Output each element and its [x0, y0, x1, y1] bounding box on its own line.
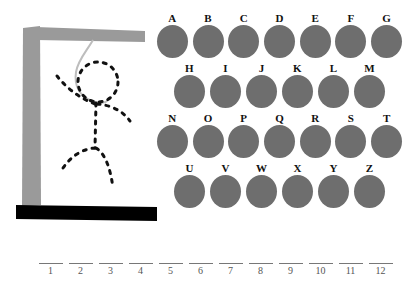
letter-label: I — [223, 62, 227, 74]
letter-label: Z — [366, 162, 374, 174]
letter-label: T — [383, 112, 391, 124]
word-slot-number: 2 — [78, 265, 83, 277]
letter-disc-icon[interactable] — [335, 125, 366, 158]
letter-button-n[interactable]: N — [155, 112, 190, 162]
letter-disc-icon[interactable] — [282, 75, 313, 108]
letter-label: S — [348, 112, 354, 124]
letter-disc-icon[interactable] — [246, 175, 277, 208]
letter-disc-icon[interactable] — [246, 75, 277, 108]
letter-disc-icon[interactable] — [264, 25, 295, 58]
figure-head-icon — [78, 62, 118, 102]
gallows-beam-icon — [36, 27, 145, 42]
letter-disc-icon[interactable] — [210, 75, 241, 108]
word-slot[interactable]: 2 — [66, 252, 95, 277]
word-slot-line — [159, 263, 183, 264]
letter-button-y[interactable]: Y — [316, 162, 351, 212]
word-slot-number: 4 — [138, 265, 143, 277]
letter-disc-icon[interactable] — [157, 25, 188, 58]
letter-disc-icon[interactable] — [193, 25, 224, 58]
word-slot-number: 5 — [168, 265, 173, 277]
letter-disc-icon[interactable] — [300, 25, 331, 58]
word-slot-line — [189, 263, 213, 264]
letter-label: F — [347, 12, 354, 24]
word-slot[interactable]: 12 — [366, 252, 395, 277]
letter-disc-icon[interactable] — [354, 175, 385, 208]
letter-button-u[interactable]: U — [172, 162, 207, 212]
letter-label: K — [293, 62, 302, 74]
letter-disc-icon[interactable] — [300, 125, 331, 158]
letter-button-r[interactable]: R — [298, 112, 333, 162]
letter-button-g[interactable]: G — [369, 12, 404, 62]
letter-label: M — [364, 62, 375, 74]
word-slot-number: 8 — [258, 265, 263, 277]
letter-disc-icon[interactable] — [282, 175, 313, 208]
letter-button-h[interactable]: H — [172, 62, 207, 112]
letter-button-e[interactable]: E — [298, 12, 333, 62]
letter-label: V — [221, 162, 229, 174]
letter-button-m[interactable]: M — [352, 62, 387, 112]
alphabet-grid: ABCDEFGHIJKLMNOPQRSTUVWXYZ — [155, 12, 405, 212]
letter-label: W — [256, 162, 267, 174]
letter-label: H — [185, 62, 194, 74]
letter-disc-icon[interactable] — [174, 175, 205, 208]
letter-button-x[interactable]: X — [280, 162, 315, 212]
word-slot-line — [309, 263, 333, 264]
letter-disc-icon[interactable] — [193, 125, 224, 158]
word-slot-number: 6 — [198, 265, 203, 277]
word-slot[interactable]: 8 — [246, 252, 275, 277]
letter-button-s[interactable]: S — [334, 112, 369, 162]
letter-button-b[interactable]: B — [191, 12, 226, 62]
word-slot[interactable]: 9 — [276, 252, 305, 277]
figure-body-icon — [95, 103, 96, 148]
letter-button-d[interactable]: D — [262, 12, 297, 62]
letter-button-a[interactable]: A — [155, 12, 190, 62]
gallows-post-icon — [22, 26, 41, 206]
letter-button-v[interactable]: V — [208, 162, 243, 212]
letter-disc-icon[interactable] — [318, 75, 349, 108]
word-slot[interactable]: 1 — [36, 252, 65, 277]
letter-button-w[interactable]: W — [244, 162, 279, 212]
letter-button-i[interactable]: I — [208, 62, 243, 112]
figure-right-leg-icon — [96, 148, 113, 188]
gallows-drawing — [0, 0, 175, 230]
word-slot[interactable]: 5 — [156, 252, 185, 277]
figure-left-leg-icon — [61, 148, 95, 171]
word-slot[interactable]: 6 — [186, 252, 215, 277]
word-slot-number: 9 — [288, 265, 293, 277]
letter-disc-icon[interactable] — [157, 125, 188, 158]
letter-label: O — [204, 112, 213, 124]
letter-disc-icon[interactable] — [264, 125, 295, 158]
letter-button-j[interactable]: J — [244, 62, 279, 112]
letter-disc-icon[interactable] — [174, 75, 205, 108]
alphabet-row: UVWXYZ — [155, 162, 405, 212]
letter-disc-icon[interactable] — [371, 25, 402, 58]
letter-label: R — [311, 112, 319, 124]
letter-button-c[interactable]: C — [226, 12, 261, 62]
letter-button-p[interactable]: P — [226, 112, 261, 162]
letter-button-k[interactable]: K — [280, 62, 315, 112]
word-slot[interactable]: 4 — [126, 252, 155, 277]
letter-disc-icon[interactable] — [228, 125, 259, 158]
letter-disc-icon[interactable] — [228, 25, 259, 58]
letter-button-t[interactable]: T — [369, 112, 404, 162]
letter-disc-icon[interactable] — [371, 125, 402, 158]
word-slot[interactable]: 3 — [96, 252, 125, 277]
letter-label: C — [240, 12, 248, 24]
letter-label: Q — [275, 112, 284, 124]
letter-disc-icon[interactable] — [318, 175, 349, 208]
letter-button-f[interactable]: F — [334, 12, 369, 62]
letter-disc-icon[interactable] — [354, 75, 385, 108]
letter-button-z[interactable]: Z — [352, 162, 387, 212]
word-slot[interactable]: 10 — [306, 252, 335, 277]
word-slot-number: 11 — [346, 265, 356, 277]
word-slot[interactable]: 11 — [336, 252, 365, 277]
hangman-game: ABCDEFGHIJKLMNOPQRSTUVWXYZ 1234567891011… — [0, 0, 414, 285]
letter-button-l[interactable]: L — [316, 62, 351, 112]
letter-button-o[interactable]: O — [191, 112, 226, 162]
word-slot[interactable]: 7 — [216, 252, 245, 277]
letter-disc-icon[interactable] — [335, 25, 366, 58]
letter-disc-icon[interactable] — [210, 175, 241, 208]
letter-label: L — [330, 62, 338, 74]
letter-button-q[interactable]: Q — [262, 112, 297, 162]
gallows-base-icon — [16, 205, 157, 221]
